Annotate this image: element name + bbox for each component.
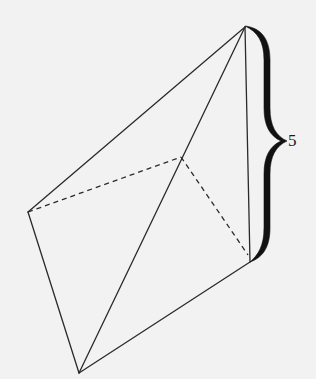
pyramid-diagram xyxy=(0,0,316,379)
edge-bottom-right xyxy=(79,262,250,373)
curly-brace-icon xyxy=(245,26,287,262)
edge-apex-right xyxy=(245,27,250,262)
hidden-edge-left-back xyxy=(28,157,181,212)
dimension-label: 5 xyxy=(288,131,297,151)
edge-apex-left xyxy=(28,27,245,212)
hidden-edge-back-right xyxy=(181,157,248,255)
edge-left-bottom xyxy=(28,212,79,373)
edge-apex-bottom xyxy=(79,27,245,373)
